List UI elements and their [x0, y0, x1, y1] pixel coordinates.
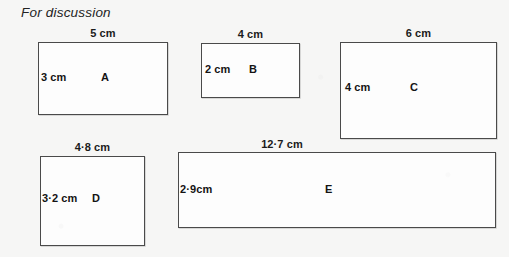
- shape-a-height-label: 3 cm: [41, 71, 66, 83]
- shape-e-height-label: 2·9cm: [180, 183, 212, 195]
- shape-a-width-label: 5 cm: [38, 27, 168, 39]
- shape-c-name-label: C: [410, 81, 418, 93]
- shape-b-height-label: 2 cm: [205, 63, 230, 75]
- shape-e-width-label: 12·7 cm: [178, 138, 386, 150]
- shape-d-name-label: D: [92, 192, 100, 204]
- shape-e-name-label: E: [325, 183, 332, 195]
- page-title: For discussion: [21, 5, 111, 20]
- shape-a-name-label: A: [101, 71, 109, 83]
- shape-c-width-label: 6 cm: [340, 27, 497, 39]
- shape-d-width-label: 4·8 cm: [40, 141, 145, 153]
- shape-d-height-label: 3·2 cm: [42, 192, 77, 204]
- worksheet-page: For discussion 5 cm 3 cm A 4 cm 2 cm B 6…: [0, 0, 509, 257]
- shape-b-width-label: 4 cm: [201, 28, 300, 40]
- shape-b-name-label: B: [249, 63, 257, 75]
- shape-e-rectangle: [178, 152, 496, 228]
- shape-c-height-label: 4 cm: [345, 81, 370, 93]
